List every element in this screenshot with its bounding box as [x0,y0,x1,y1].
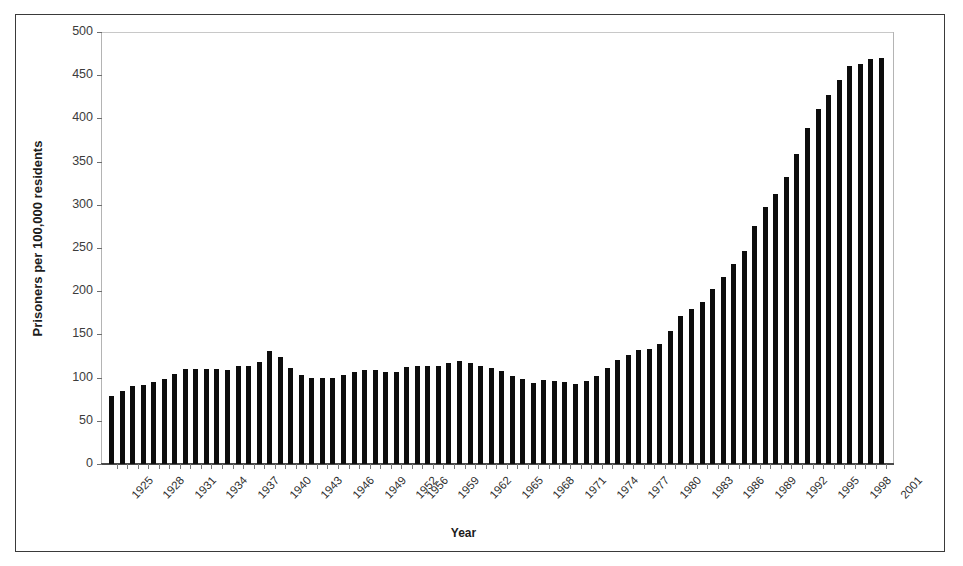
x-axis-tick-mark [117,464,118,469]
x-axis-tick-mark [886,464,887,469]
x-axis-tick-label: 1946 [350,474,376,501]
x-axis-tick-label: 1943 [318,474,344,501]
x-axis-tick-mark [675,464,676,469]
x-axis-tick-label: 1980 [677,474,703,501]
x-axis-tick-label: 1928 [160,474,186,501]
bar [573,384,578,464]
x-axis-tick-label: 1995 [835,474,861,501]
bar [752,226,757,464]
bar [373,370,378,464]
x-axis-tick-mark [454,464,455,469]
x-axis-tick-mark [180,464,181,469]
bar [562,382,567,464]
bar [457,361,462,464]
x-axis-tick-mark [528,464,529,469]
x-axis-tick-mark [507,464,508,469]
x-axis-tick-mark [391,464,392,469]
bar [837,80,842,464]
bar [847,66,852,464]
x-axis-tick-mark [475,464,476,469]
x-axis-tick-label: 1962 [487,474,513,501]
x-axis-tick-mark [422,464,423,469]
x-axis-tick-mark [665,464,666,469]
x-axis-tick-mark [823,464,824,469]
x-axis-tick-mark [327,464,328,469]
x-axis-tick-mark [349,464,350,469]
x-axis-tick-mark [254,464,255,469]
bar [446,363,451,464]
x-axis-tick-mark [201,464,202,469]
x-axis-tick-mark [496,464,497,469]
bar [700,302,705,464]
x-axis-tick-mark [486,464,487,469]
x-axis-tick-mark [190,464,191,469]
bar [605,368,610,464]
bar [647,349,652,464]
x-axis-tick-mark [697,464,698,469]
bar [868,59,873,464]
x-axis-tick-mark [138,464,139,469]
x-axis-tick-mark [211,464,212,469]
x-axis-tick-mark [749,464,750,469]
x-axis-tick-mark [813,464,814,469]
bar [436,366,441,464]
x-axis-tick-mark [243,464,244,469]
bar [352,372,357,464]
bar [257,362,262,464]
bar-chart: Prisoners per 100,000 residents 05010015… [16,15,946,553]
bar [183,369,188,464]
x-axis-tick-mark [517,464,518,469]
x-axis-tick-mark [612,464,613,469]
x-axis-tick-label: 1925 [129,474,155,501]
x-axis-tick-mark [644,464,645,469]
y-axis-tick-mark [97,464,102,465]
x-axis-tick-mark [739,464,740,469]
x-axis-tick-label: 1986 [740,474,766,501]
x-axis-tick-mark [233,464,234,469]
x-axis-tick-mark [159,464,160,469]
y-axis-tick-label: 350 [49,155,93,168]
x-axis-tick-mark [602,464,603,469]
x-axis-tick-mark [686,464,687,469]
x-axis-tick-mark [633,464,634,469]
bar [668,331,673,464]
x-axis-tick-mark [370,464,371,469]
x-axis-tick-label: 1931 [192,474,218,501]
bar [288,368,293,464]
x-axis-tick-mark [127,464,128,469]
x-axis-tick-label: 1992 [804,474,830,501]
bar [404,367,409,464]
x-axis-tick-mark [844,464,845,469]
x-axis-tick-mark [728,464,729,469]
x-axis-tick-mark [264,464,265,469]
x-axis-tick-mark [359,464,360,469]
x-axis-tick-mark [306,464,307,469]
bar [320,378,325,464]
y-axis-tick-label: 200 [49,284,93,297]
x-axis-tick-mark [296,464,297,469]
bar [162,379,167,464]
bar [552,381,557,464]
y-axis-tick-label: 400 [49,111,93,124]
bar [594,376,599,464]
x-axis-tick-label: 1968 [550,474,576,501]
bar [478,366,483,464]
x-axis-tick-mark [433,464,434,469]
bar [236,366,241,464]
bar [584,381,589,464]
bar [130,386,135,464]
bar [362,370,367,464]
x-axis-tick-mark [855,464,856,469]
bar [784,177,789,464]
x-axis-tick-mark [834,464,835,469]
y-axis-tick-label: 50 [49,414,93,427]
y-axis-tick-label: 0 [49,457,93,470]
x-axis-tick-label: 1937 [255,474,281,501]
bar [341,375,346,464]
x-axis-tick-mark [760,464,761,469]
y-axis-tick-label: 500 [49,25,93,38]
bar [109,396,114,464]
x-axis-tick-label: 1940 [287,474,313,501]
bar [204,369,209,464]
bar [330,378,335,464]
